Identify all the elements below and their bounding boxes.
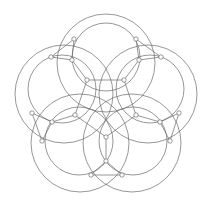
edge-a3-b5	[160, 122, 170, 141]
vertex-p5	[73, 113, 77, 117]
circle-o-bottom-right	[83, 94, 181, 192]
edge-p5-p1	[75, 80, 87, 115]
vertex-b2	[134, 37, 138, 41]
vertex-a5	[50, 120, 54, 124]
vertex-a1	[70, 58, 74, 62]
circle-o-top	[57, 14, 155, 112]
vertex-b5	[168, 139, 172, 143]
vertex-b6	[120, 173, 124, 177]
vertex-a3	[158, 120, 162, 124]
vertex-b9	[30, 111, 34, 115]
vertex-p4	[104, 135, 108, 139]
vertex-p3	[134, 113, 138, 117]
edge-p2-p3	[124, 80, 136, 115]
circle-c-top	[72, 23, 140, 91]
vertex-b1	[72, 37, 76, 41]
edge-a4-b7	[91, 161, 106, 175]
vertex-b8	[40, 139, 44, 143]
edge-p2-a2	[124, 60, 139, 80]
edge-a2-b3	[139, 57, 161, 60]
circle-c-right	[116, 55, 184, 123]
edge-a5-b8	[42, 122, 52, 141]
circle-o-bottom-left	[31, 94, 129, 192]
vertex-a2	[137, 58, 141, 62]
edge-b1-b10	[51, 39, 74, 57]
circle-o-left	[15, 45, 113, 143]
vertex-b10	[49, 55, 53, 59]
vertex-p1	[85, 78, 89, 82]
graph-diagram	[0, 0, 209, 203]
node-layer	[30, 37, 181, 177]
diagram-canvas	[0, 0, 209, 203]
vertex-a4	[104, 159, 108, 163]
edge-a2-b2	[136, 39, 139, 60]
edge-layer	[32, 39, 179, 175]
vertex-b7	[89, 173, 93, 177]
edge-a1-b10	[51, 57, 72, 60]
edge-a3-b4	[160, 113, 179, 122]
edge-a4-b6	[106, 161, 122, 175]
edge-b4-b5	[170, 113, 179, 141]
vertex-b3	[159, 55, 163, 59]
circle-c-left	[28, 55, 96, 123]
vertex-p2	[122, 78, 126, 82]
vertex-b4	[177, 111, 181, 115]
circle-o-right	[99, 45, 197, 143]
circle-layer	[15, 14, 197, 192]
